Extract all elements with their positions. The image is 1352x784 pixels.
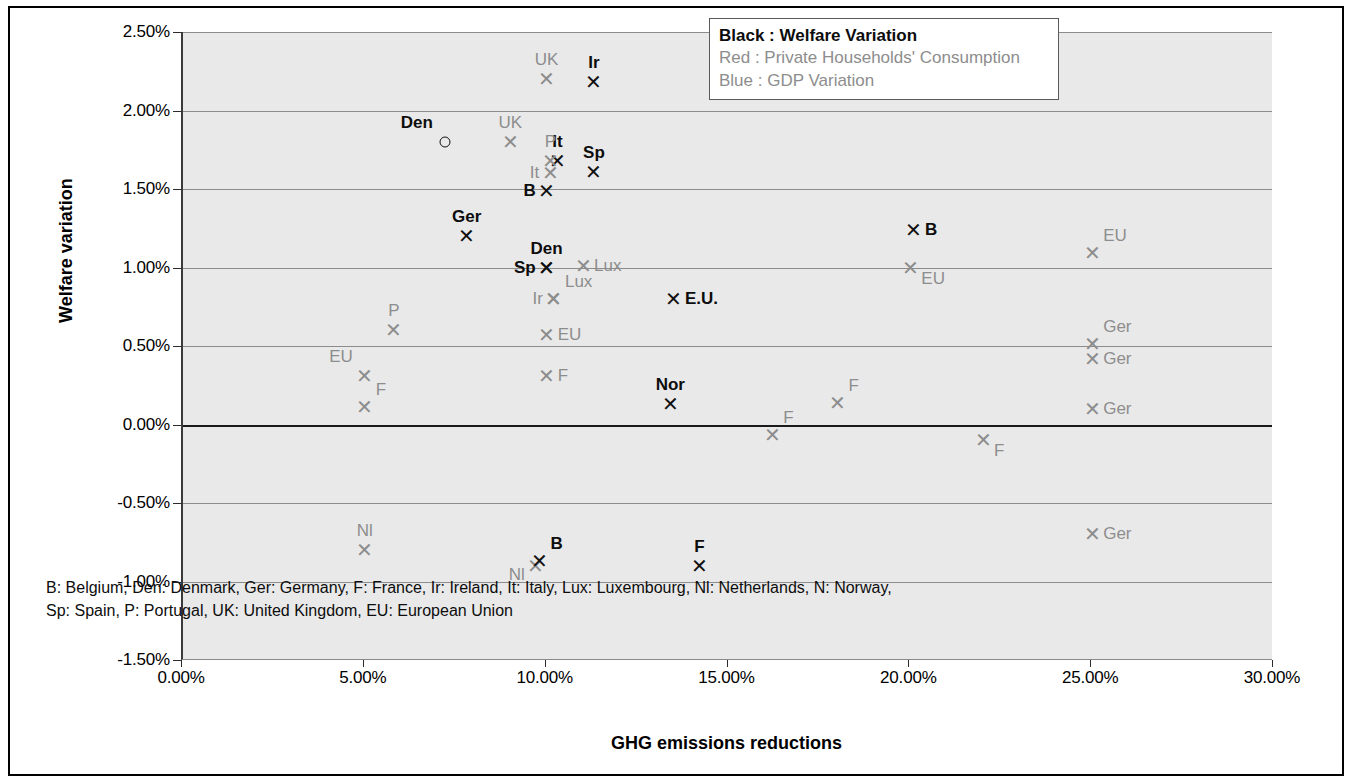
data-point-label: Ir — [533, 289, 543, 306]
y-tick-label: -0.50% — [117, 493, 170, 513]
gridline — [183, 189, 1272, 190]
data-point-label: Lux — [594, 256, 621, 273]
data-point-marker — [439, 136, 450, 147]
data-point-label: EU — [921, 269, 945, 286]
data-point-label: Nl — [357, 522, 373, 539]
data-point-label: EU — [1103, 227, 1127, 244]
x-tick-label: 25.00% — [1062, 668, 1118, 688]
data-point-marker: ✕ — [542, 163, 559, 183]
y-tick-mark — [173, 32, 181, 33]
x-tick-label: 20.00% — [880, 668, 936, 688]
y-tick-label: 2.00% — [123, 101, 170, 121]
data-point-label: Ir — [588, 54, 599, 71]
data-point-label: Sp — [514, 258, 536, 275]
data-point-label: B — [550, 535, 562, 552]
data-point-marker: ✕ — [356, 397, 373, 417]
footnote-line-1: B: Belgium, Den: Denmark, Ger: Germany, … — [46, 577, 1046, 600]
data-point-marker: ✕ — [1084, 399, 1101, 419]
data-point-marker: ✕ — [662, 394, 679, 414]
data-point-label: F — [994, 442, 1004, 459]
x-tick-mark — [1090, 660, 1091, 667]
data-point-label: E.U. — [685, 289, 718, 306]
data-point-marker: ✕ — [1084, 349, 1101, 369]
data-point-label: Den — [401, 113, 433, 130]
x-axis-title: GHG emissions reductions — [181, 733, 1272, 754]
y-tick-label: 1.50% — [123, 179, 170, 199]
data-point-label: F — [783, 409, 793, 426]
data-point-marker: ✕ — [458, 226, 475, 246]
data-point-marker: ✕ — [585, 162, 602, 182]
data-point-marker: ✕ — [385, 320, 402, 340]
data-point-marker: ✕ — [538, 325, 555, 345]
y-tick-mark — [173, 660, 181, 661]
data-point-label: Lux — [565, 272, 592, 289]
x-tick-mark — [181, 660, 182, 667]
data-point-label: Nor — [656, 376, 685, 393]
data-point-label: EU — [558, 326, 582, 343]
data-point-marker: ✕ — [549, 151, 566, 171]
data-point-marker: ✕ — [1084, 334, 1101, 354]
y-tick-mark — [173, 268, 181, 269]
data-point-marker: ✕ — [527, 556, 544, 576]
y-tick-mark — [173, 111, 181, 112]
data-point-marker: ✕ — [356, 540, 373, 560]
y-axis-title: Welfare variation — [56, 131, 77, 371]
data-point-label: B — [925, 220, 937, 237]
y-tick-label: 2.50% — [123, 22, 170, 42]
x-tick-mark — [1272, 660, 1273, 667]
x-tick-label: 30.00% — [1244, 668, 1300, 688]
y-tick-mark — [173, 425, 181, 426]
x-tick-mark — [545, 660, 546, 667]
x-tick-label: 15.00% — [698, 668, 754, 688]
data-point-marker: ✕ — [665, 289, 682, 309]
legend-item-consumption: Red : Private Households' Consumption — [719, 47, 1049, 69]
gridline — [183, 111, 1272, 112]
data-point-label: F — [376, 381, 386, 398]
data-point-label: Ger — [1103, 399, 1131, 416]
y-tick-mark — [173, 189, 181, 190]
data-point-marker: ✕ — [545, 289, 562, 309]
data-point-marker: ✕ — [538, 366, 555, 386]
y-tick-mark — [173, 346, 181, 347]
data-point-label: UK — [535, 51, 559, 68]
data-point-label: F — [694, 537, 704, 554]
y-tick-label: -1.50% — [117, 650, 170, 670]
data-point-marker: ✕ — [905, 220, 922, 240]
legend-item-welfare: Black : Welfare Variation — [719, 25, 1049, 47]
data-point-label: Ger — [1103, 525, 1131, 542]
data-point-marker: ✕ — [502, 132, 519, 152]
data-point-label: Ger — [1103, 318, 1131, 335]
data-point-label: F — [849, 376, 859, 393]
data-point-marker: ✕ — [691, 556, 708, 576]
data-point-marker: ✕ — [764, 425, 781, 445]
gridline — [183, 503, 1272, 504]
y-tick-label: 1.00% — [123, 258, 170, 278]
data-point-marker: ✕ — [538, 181, 555, 201]
data-point-marker: ✕ — [1084, 243, 1101, 263]
chart-legend: Black : Welfare Variation Red : Private … — [709, 18, 1059, 100]
data-point-label: P — [545, 132, 556, 149]
data-point-label: Ger — [452, 208, 481, 225]
gridline — [183, 268, 1272, 269]
data-point-label: B — [523, 181, 535, 198]
data-point-marker: ✕ — [975, 430, 992, 450]
x-tick-label: 0.00% — [157, 668, 204, 688]
data-point-marker: ✕ — [531, 551, 548, 571]
data-point-marker: ✕ — [538, 69, 555, 89]
y-tick-label: 0.50% — [123, 336, 170, 356]
data-point-label: UK — [498, 113, 522, 130]
data-point-label: It — [530, 164, 539, 181]
legend-item-gdp: Blue : GDP Variation — [719, 70, 1049, 92]
data-point-marker: ✕ — [542, 151, 559, 171]
x-tick-label: 10.00% — [516, 668, 572, 688]
x-tick-mark — [363, 660, 364, 667]
plot-area: ✕Ir✕Sp✕It✕BDen✕Ger✕Den✕Sp✕B✕E.U.✕Nor✕F✕U… — [181, 32, 1272, 660]
country-abbreviation-note: B: Belgium, Den: Denmark, Ger: Germany, … — [46, 577, 1046, 622]
x-tick-mark — [908, 660, 909, 667]
data-point-marker: ✕ — [1084, 524, 1101, 544]
data-point-label: Ger — [1103, 349, 1131, 366]
data-point-label: Den — [531, 239, 563, 256]
x-tick-label: 5.00% — [339, 668, 386, 688]
data-point-marker: ✕ — [545, 289, 562, 309]
footnote-line-2: Sp: Spain, P: Portugal, UK: United Kingd… — [46, 600, 1046, 623]
